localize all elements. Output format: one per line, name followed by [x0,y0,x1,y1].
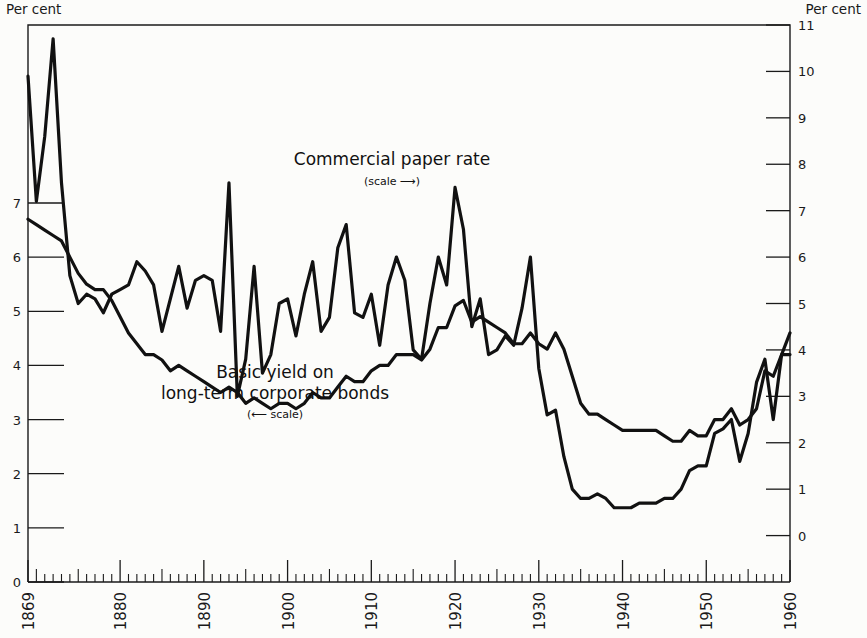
right-axis-header: Per cent [806,1,861,17]
svg-text:6: 6 [13,250,21,265]
svg-text:1: 1 [798,482,806,497]
svg-text:0: 0 [13,575,21,590]
svg-text:3: 3 [13,413,21,428]
chart-figure: Per cent Per cent 01234567 0123456789101… [0,0,867,638]
svg-text:0: 0 [798,529,806,544]
svg-text:6: 6 [798,250,806,265]
svg-text:7: 7 [13,196,21,211]
svg-text:3: 3 [798,389,806,404]
left-axis-ticks: 01234567 [13,196,64,590]
svg-text:1950: 1950 [698,592,716,630]
svg-text:4: 4 [798,343,806,358]
svg-text:2: 2 [798,436,806,451]
svg-text:1880: 1880 [112,592,130,630]
svg-text:1930: 1930 [531,592,549,630]
svg-text:1: 1 [13,521,21,536]
svg-text:1900: 1900 [280,592,298,630]
x-axis-ticks [28,560,790,582]
svg-text:1940: 1940 [615,592,633,630]
svg-text:1910: 1910 [363,592,381,630]
svg-text:2: 2 [13,467,21,482]
svg-text:4: 4 [13,358,21,373]
commercial-paper-scale-note: (scale ⟶) [364,175,420,188]
series-line [28,219,790,441]
svg-text:10: 10 [798,64,815,79]
svg-text:7: 7 [798,204,806,219]
svg-text:1869: 1869 [20,592,38,630]
chart-canvas: Per cent Per cent 01234567 0123456789101… [0,0,867,638]
data-series [28,39,790,508]
left-axis-header: Per cent [6,1,61,17]
commercial-paper-label: Commercial paper rate [294,149,490,169]
svg-text:9: 9 [798,111,806,126]
svg-text:5: 5 [798,297,806,312]
series-line [28,39,790,508]
bonds-label-line1: Basic yield on [216,362,334,382]
x-axis-labels: 1869188018901900191019201930194019501960 [20,592,800,630]
svg-text:1890: 1890 [196,592,214,630]
svg-text:1960: 1960 [782,592,800,630]
svg-text:1920: 1920 [447,592,465,630]
bonds-label-line2: long-term corporate bonds [161,383,389,403]
svg-text:5: 5 [13,304,21,319]
svg-text:11: 11 [798,18,815,33]
bonds-scale-note: (⟵ scale) [247,408,303,421]
svg-text:8: 8 [798,157,806,172]
